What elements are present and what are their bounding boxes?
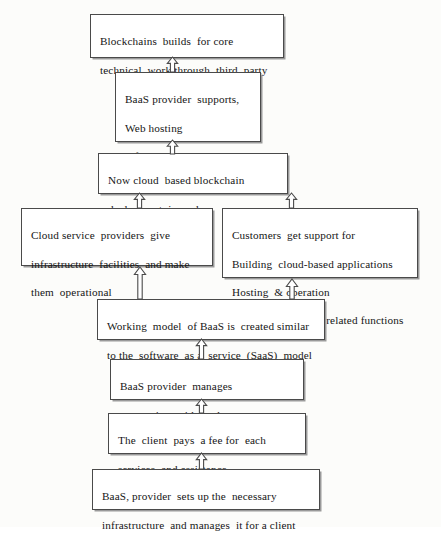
node-text-line: Working model of BaaS is created similar <box>107 319 316 333</box>
node-text-line: Cloud service providers give <box>31 228 204 242</box>
arrow-up-icon <box>195 452 208 470</box>
arrow-up-icon <box>285 192 298 209</box>
node-text-line: BaaS provider supports, <box>125 92 252 106</box>
flow-node-cloud-service-providers: Cloud service providers give infrastruct… <box>21 208 213 266</box>
node-text-line: infrastructure and manages it for a clie… <box>102 518 311 532</box>
node-text-line: Building cloud-based applications <box>232 257 409 271</box>
arrow-up-icon <box>195 338 208 360</box>
node-text-line: Customers get support for <box>232 228 409 242</box>
flow-node-working-model-saas: Working model of BaaS is created similar… <box>97 299 325 340</box>
node-text-line: them operational <box>31 285 204 299</box>
flow-node-baas-sets-up-infrastructure: BaaS, provider sets up the necessary inf… <box>92 469 320 510</box>
node-text-line: Blockchains builds for core <box>100 34 275 48</box>
arrow-up-icon <box>285 278 299 300</box>
arrow-up-icon <box>133 192 146 209</box>
flow-node-manages-node-connection: BaaS provider manages connection with no… <box>110 359 304 400</box>
node-text-line: BaaS, provider sets up the necessary <box>102 489 311 503</box>
flow-node-baas-provider-supports: BaaS provider supports, Web hosting Infr… <box>115 72 261 142</box>
node-text-line: Hosting & operation <box>232 285 409 299</box>
flow-node-cloud-deployment-ready: Now cloud based blockchain deployment is… <box>98 153 288 194</box>
node-text-line: BaaS provider manages <box>120 379 295 393</box>
arrow-up-icon <box>195 398 208 414</box>
arrow-up-icon <box>166 139 179 155</box>
arrow-up-icon <box>133 266 147 300</box>
flow-node-blockchains: Blockchains builds for core technical wo… <box>90 14 284 58</box>
node-text-line: Web hosting <box>125 121 252 135</box>
arrow-up-icon <box>166 56 179 73</box>
flow-node-client-pays-fee: The client pays a fee for each services … <box>108 413 306 454</box>
node-text-line: The client pays a fee for each <box>118 433 297 447</box>
flow-node-customers-support: Customers get support for Building cloud… <box>222 208 418 278</box>
node-text-line: Now cloud based blockchain <box>108 173 279 187</box>
node-text-line: infrastructure facilities and make <box>31 257 204 271</box>
